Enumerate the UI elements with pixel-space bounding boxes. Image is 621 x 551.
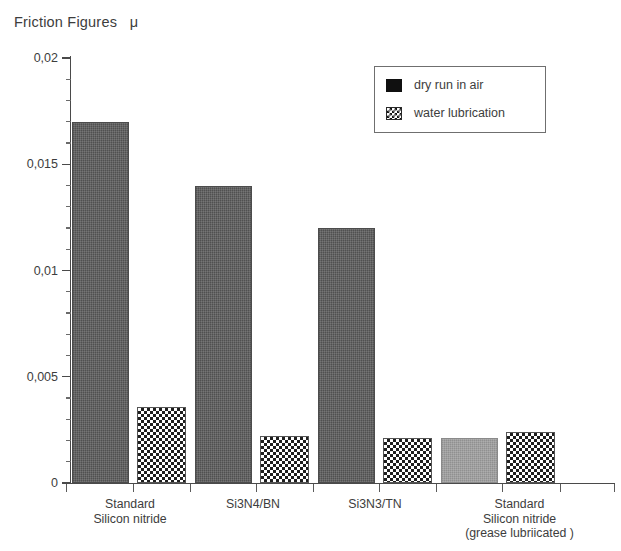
x-axis-tick bbox=[502, 484, 503, 492]
x-axis-tick bbox=[436, 484, 437, 492]
legend-item-dry-run-in-air: dry run in air bbox=[386, 77, 483, 93]
legend-label-1: water lubrication bbox=[414, 106, 505, 120]
x-axis-tick bbox=[313, 484, 314, 492]
y-axis-tick-labels: 00,0050,010,0150,02 bbox=[0, 0, 58, 551]
y-axis-tick-label: 0,005 bbox=[27, 370, 58, 384]
y-axis-major-tick bbox=[62, 164, 71, 165]
y-axis-major-tick bbox=[62, 57, 71, 58]
checkerboard-square-icon bbox=[386, 107, 402, 120]
bar bbox=[506, 432, 555, 483]
y-axis-major-tick bbox=[62, 376, 71, 377]
x-axis-tick bbox=[560, 484, 561, 492]
x-axis-category-label: Standard Silicon nitride (grease lubriic… bbox=[432, 497, 607, 541]
bar bbox=[72, 122, 129, 483]
y-axis-tick-label: 0,01 bbox=[34, 264, 58, 278]
legend-label-0: dry run in air bbox=[414, 78, 483, 92]
bar bbox=[260, 436, 309, 483]
friction-figures-bar-chart: Friction Figures μ 00,0050,010,0150,02 d… bbox=[0, 0, 621, 551]
legend-item-water-lubrication: water lubrication bbox=[386, 105, 505, 121]
x-axis-tick bbox=[256, 484, 257, 492]
x-axis-tick bbox=[614, 484, 615, 492]
y-axis-tick-label: 0 bbox=[51, 476, 58, 490]
bar bbox=[318, 228, 375, 483]
x-axis-category-label: Si3N4/BN bbox=[188, 497, 318, 512]
y-axis-major-tick bbox=[62, 270, 71, 271]
bar bbox=[441, 438, 498, 483]
bar bbox=[383, 438, 432, 483]
bar bbox=[195, 186, 252, 484]
legend-box: dry run in air water lubrication bbox=[374, 66, 546, 133]
y-axis-tick-label: 0,02 bbox=[34, 51, 58, 65]
x-axis-tick bbox=[66, 484, 67, 492]
x-axis-tick bbox=[379, 484, 380, 492]
x-axis-tick bbox=[190, 484, 191, 492]
solid-black-square-icon bbox=[386, 79, 402, 92]
x-axis-tick bbox=[133, 484, 134, 492]
x-axis-line bbox=[62, 483, 615, 484]
y-axis-tick-label: 0,015 bbox=[27, 157, 58, 171]
x-axis-category-label: Si3N3/TN bbox=[310, 497, 440, 512]
x-axis-category-label: Standard Silicon nitride bbox=[60, 497, 200, 526]
bar bbox=[137, 407, 186, 484]
